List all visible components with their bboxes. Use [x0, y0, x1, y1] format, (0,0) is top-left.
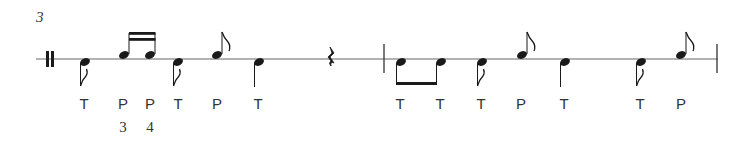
stroke-label: T	[471, 95, 491, 112]
stroke-label: P	[207, 95, 227, 112]
finger-number: 4	[140, 119, 160, 136]
stroke-label: T	[248, 95, 268, 112]
note-eighth-up	[211, 32, 230, 60]
quarter-rest	[328, 47, 334, 66]
stroke-label: T	[74, 95, 94, 112]
note-eighth-up	[675, 32, 694, 60]
stroke-label: P	[671, 95, 691, 112]
note-quarter-down	[253, 57, 265, 87]
stroke-label: T	[168, 95, 188, 112]
note-eighth-down	[476, 57, 488, 86]
note-sixteenth-pair-up	[118, 32, 156, 60]
rhythm-score: 3 T P P T P T T T T P T T P 3 4	[0, 0, 753, 145]
note-eighth-down	[172, 57, 184, 86]
stroke-label: T	[630, 95, 650, 112]
stroke-label: P	[511, 95, 531, 112]
measure-number: 3	[36, 9, 44, 26]
stroke-label: P	[113, 95, 133, 112]
stroke-label: T	[390, 95, 410, 112]
finger-number: 3	[113, 119, 133, 136]
stroke-label: T	[430, 95, 450, 112]
note-eighth-down	[635, 57, 647, 86]
stroke-label: T	[554, 95, 574, 112]
note-quarter-down	[559, 57, 571, 87]
note-eighth-pair-down	[395, 57, 447, 85]
note-eighth-up	[516, 32, 535, 60]
stroke-label: P	[140, 95, 160, 112]
note-eighth-down	[79, 57, 91, 86]
